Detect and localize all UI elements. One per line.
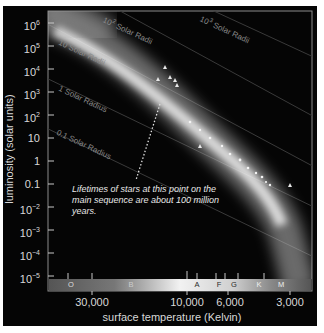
pointer-line bbox=[136, 104, 160, 180]
spectral-class-label: G bbox=[231, 280, 237, 289]
spectral-class-label: K bbox=[256, 280, 261, 289]
x-axis-label: surface temperature (Kelvin) bbox=[0, 311, 324, 323]
x-tick-label: 10,000 bbox=[170, 296, 204, 308]
y-tick-marks bbox=[48, 23, 54, 276]
x-tick-label: 6,000 bbox=[216, 296, 244, 308]
spectral-class-label: A bbox=[194, 280, 199, 289]
y-tick-label: 10−3 bbox=[6, 224, 40, 239]
y-tick-label: 104 bbox=[6, 63, 40, 78]
y-tick-label: 105 bbox=[6, 40, 40, 55]
y-axis-label: luminosity (solar units) bbox=[3, 84, 15, 214]
hr-diagram-plot bbox=[0, 0, 324, 333]
spectral-class-label: F bbox=[217, 280, 222, 289]
spectral-class-label: B bbox=[128, 280, 133, 289]
y-tick-label: 10−5 bbox=[6, 270, 40, 285]
y-tick-label: 106 bbox=[6, 17, 40, 32]
x-tick-label: 30,000 bbox=[75, 296, 109, 308]
lifetime-annotation: Lifetimes of stars at this point on the … bbox=[72, 184, 222, 217]
x-tick-label: 3,000 bbox=[276, 296, 304, 308]
spectral-class-bar bbox=[49, 279, 311, 291]
spectral-class-label: O bbox=[68, 280, 74, 289]
spectral-class-label: M bbox=[278, 280, 284, 289]
y-tick-label: 10−4 bbox=[6, 247, 40, 262]
